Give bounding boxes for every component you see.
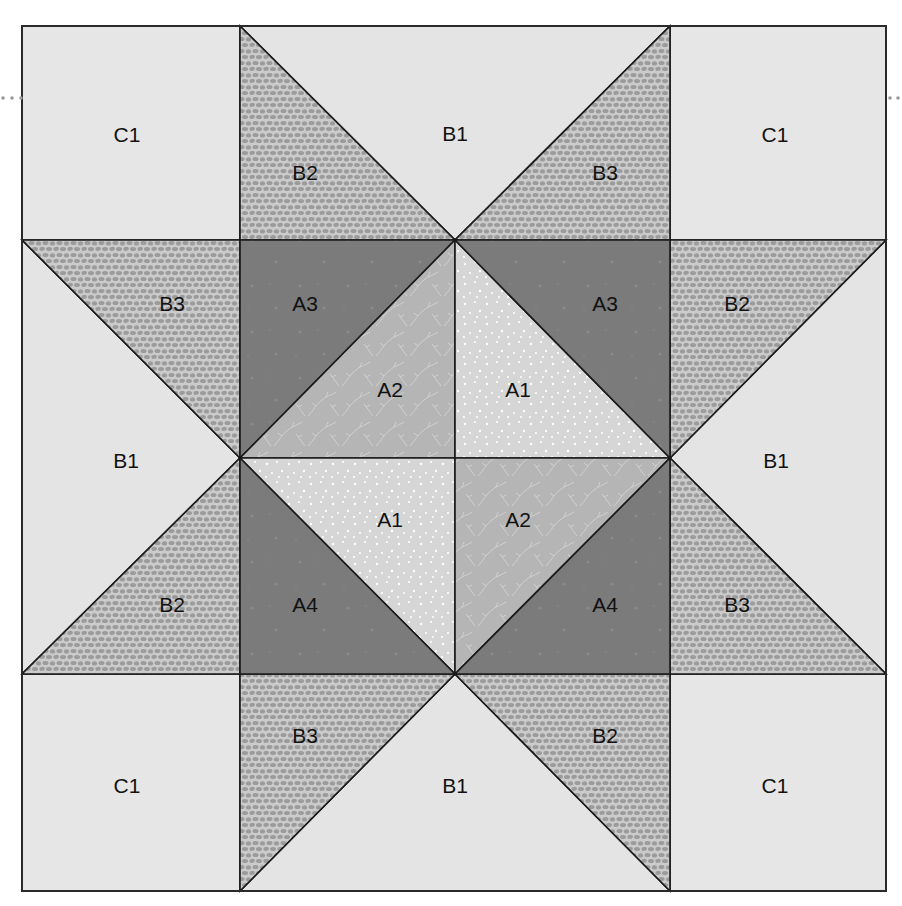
piece-label: A2 <box>377 378 403 401</box>
margin-dot <box>888 96 892 100</box>
quilt-block-diagram: C1C1C1C1B1B2B3B1B3B2B1B2B3B1B3B2A3A2A1A3… <box>0 0 902 906</box>
piece-label: C1 <box>114 774 141 797</box>
margin-dot <box>1 96 5 100</box>
piece-label: B2 <box>724 292 750 315</box>
piece-label: B2 <box>292 161 318 184</box>
piece-label: B1 <box>113 449 139 472</box>
piece-label: A1 <box>377 508 403 531</box>
piece-label: A1 <box>505 378 531 401</box>
margin-dot <box>896 96 900 100</box>
piece-label: A2 <box>505 508 531 531</box>
quilt-pieces <box>22 26 886 891</box>
piece-label: B3 <box>724 593 750 616</box>
margin-dot <box>10 96 14 100</box>
margin-dot <box>19 96 23 100</box>
piece-label: B3 <box>592 161 618 184</box>
piece-label: B1 <box>442 774 468 797</box>
piece-label: B3 <box>292 724 318 747</box>
piece-label: B2 <box>592 724 618 747</box>
piece-label: C1 <box>762 123 789 146</box>
piece-label: A4 <box>292 593 318 616</box>
piece-label: A3 <box>292 292 318 315</box>
piece-label: C1 <box>114 123 141 146</box>
piece-label: B1 <box>442 122 468 145</box>
piece-label: B1 <box>763 449 789 472</box>
piece-label: C1 <box>762 774 789 797</box>
piece-label: B2 <box>159 593 185 616</box>
piece-label: A4 <box>592 593 618 616</box>
piece-label: B3 <box>159 292 185 315</box>
piece-label: A3 <box>592 292 618 315</box>
